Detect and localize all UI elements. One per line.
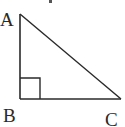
side-ac — [20, 14, 121, 99]
vertex-label-b: B — [3, 105, 16, 126]
partial-mark — [49, 0, 52, 3]
right-angle-marker — [20, 78, 40, 99]
triangle-diagram: A B C — [0, 0, 125, 127]
vertex-label-a: A — [0, 9, 14, 30]
vertex-label-c: C — [105, 109, 118, 127]
